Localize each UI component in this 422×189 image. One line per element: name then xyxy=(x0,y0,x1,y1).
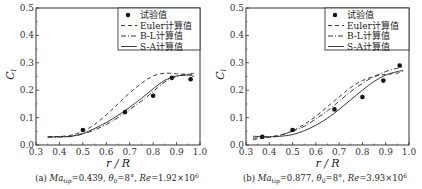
legend-label: 试验值 xyxy=(347,9,374,20)
series-line-dashed xyxy=(48,73,194,137)
x-tick-label: 0.5 xyxy=(285,147,300,157)
y-tick-label: 0.3 xyxy=(20,58,35,68)
y-tick-label: 0.0 xyxy=(230,140,245,150)
legend: 试验值Euler计算值B-L计算值S-A计算值 xyxy=(325,8,409,52)
y-tick-label: 0.0 xyxy=(20,140,35,150)
caption-re-value: =3.93×10 xyxy=(359,173,403,183)
y-tick-label: 0.4 xyxy=(20,30,35,40)
caption-label: (b) xyxy=(243,173,258,183)
caption-theta-value: =8°, xyxy=(117,173,139,183)
y-tick-label: 0.3 xyxy=(230,58,245,68)
legend: 试验值Euler计算值B-L计算值S-A计算值 xyxy=(118,8,200,52)
panel-caption: (a) Matip=0.439, θ0=8°, Re=1.92×106 xyxy=(35,172,199,185)
x-axis-label: r / R xyxy=(106,157,130,170)
y-axis-label: Cl xyxy=(214,69,228,80)
chart-panel-b: 0.30.40.50.60.70.80.91.00.00.10.20.30.40… xyxy=(214,3,416,185)
data-point-experiment xyxy=(151,93,156,98)
legend-label: B-L计算值 xyxy=(347,30,390,41)
y-axis-label: Cl xyxy=(4,69,18,80)
y-tick-label: 0.1 xyxy=(230,113,244,123)
y-axis-label-subscript: l xyxy=(220,69,228,71)
series-line-dashdot xyxy=(48,73,194,137)
x-tick-label: 0.4 xyxy=(52,147,67,157)
figure: 0.30.40.50.60.70.80.91.00.00.10.20.30.40… xyxy=(0,0,422,189)
x-tick-label: 0.9 xyxy=(379,147,394,157)
series-line-dashed xyxy=(253,71,403,140)
caption-re: Re xyxy=(347,173,359,183)
legend-label: S-A计算值 xyxy=(347,41,390,52)
x-tick-label: 0.6 xyxy=(309,147,324,157)
legend-marker-icon xyxy=(333,13,337,17)
x-tick-label: 0.9 xyxy=(169,147,184,157)
legend-label: Euler计算值 xyxy=(140,20,192,31)
data-point-experiment xyxy=(188,77,193,82)
caption-ma: Ma xyxy=(257,173,272,183)
caption-re: Re xyxy=(139,173,151,183)
legend-label: Euler计算值 xyxy=(347,20,399,31)
y-tick-label: 0.5 xyxy=(20,3,35,13)
x-tick-label: 0.6 xyxy=(99,147,114,157)
x-tick-label: 0.7 xyxy=(123,147,138,157)
x-tick-label: 0.7 xyxy=(332,147,347,157)
x-tick-label: 0.8 xyxy=(355,147,370,157)
data-point-experiment xyxy=(332,107,337,112)
caption-ma-value: =0.439, xyxy=(72,173,109,183)
caption-ma-value: =0.877, xyxy=(280,173,317,183)
panel-caption: (b) Matip=0.877, θ0=8°, Re=3.93×106 xyxy=(243,172,407,185)
data-point-experiment xyxy=(381,78,386,83)
y-tick-label: 0.2 xyxy=(20,85,34,95)
caption-re-exponent: 6 xyxy=(403,172,407,179)
x-tick-label: 0.4 xyxy=(262,147,277,157)
y-tick-label: 0.5 xyxy=(230,3,245,13)
caption-theta-value: =8°, xyxy=(326,173,348,183)
x-tick-label: 1.0 xyxy=(193,147,208,157)
chart-panel-a: 0.30.40.50.60.70.80.91.00.00.10.20.30.40… xyxy=(4,3,207,185)
y-tick-label: 0.2 xyxy=(230,85,244,95)
caption-ma: Ma xyxy=(49,173,64,183)
caption-label: (a) xyxy=(35,173,49,183)
y-tick-label: 0.4 xyxy=(230,30,245,40)
x-tick-label: 0.8 xyxy=(146,147,161,157)
caption-ma-sub: tip xyxy=(272,177,280,185)
series-line-solid xyxy=(253,70,403,136)
caption-re-value: =1.92×10 xyxy=(151,173,195,183)
series-line-solid xyxy=(48,75,194,137)
legend-marker-icon xyxy=(126,13,130,17)
x-tick-label: 1.0 xyxy=(402,147,417,157)
caption-re-exponent: 6 xyxy=(195,172,199,179)
data-point-experiment xyxy=(360,95,365,100)
x-axis-label: r / R xyxy=(315,157,339,170)
caption-ma-sub: tip xyxy=(63,177,71,185)
y-axis-label-subscript: l xyxy=(10,69,18,71)
y-tick-label: 0.1 xyxy=(20,113,34,123)
legend-label: 试验值 xyxy=(140,9,167,20)
legend-label: B-L计算值 xyxy=(140,30,183,41)
legend-label: S-A计算值 xyxy=(140,41,183,52)
x-tick-label: 0.5 xyxy=(76,147,91,157)
